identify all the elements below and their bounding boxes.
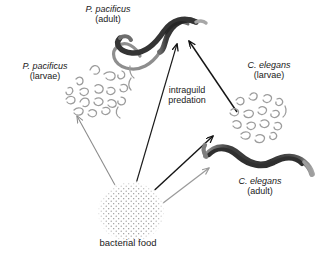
label-species: P. pacificus xyxy=(2,61,88,71)
label-species: P. pacificus xyxy=(62,4,154,14)
label-p-pacificus-larvae: P. pacificus (larvae) xyxy=(2,61,88,81)
c-elegans-larvae-cluster xyxy=(230,93,286,143)
c-elegans-adult-worm xyxy=(204,145,312,175)
interaction-line-1: intraguild xyxy=(150,85,224,95)
label-species: C. elegans xyxy=(214,176,306,186)
edge-food-to-p-pacificus-larvae xyxy=(77,116,121,196)
label-intraguild-predation: intraguild predation xyxy=(150,85,224,105)
resource-label: bacterial food xyxy=(72,238,184,249)
label-p-pacificus-adult: P. pacificus (adult) xyxy=(62,4,154,24)
edge-food-to-p-pacificus-adult xyxy=(133,44,177,194)
label-bacterial-food: bacterial food xyxy=(72,238,184,249)
label-species: C. elegans xyxy=(226,60,312,70)
bacterial-food-patch xyxy=(97,181,165,243)
label-stage: (adult) xyxy=(62,14,154,24)
diagram-canvas: P. pacificus (adult) P. pacificus (larva… xyxy=(0,0,317,260)
p-pacificus-adult-worm xyxy=(114,19,206,69)
diagram-graphics xyxy=(0,0,317,260)
label-c-elegans-adult: C. elegans (adult) xyxy=(214,176,306,196)
interaction-line-2: predation xyxy=(150,95,224,105)
label-stage: (adult) xyxy=(214,186,306,196)
label-stage: (larvae) xyxy=(2,71,88,81)
label-c-elegans-larvae: C. elegans (larvae) xyxy=(226,60,312,80)
label-stage: (larvae) xyxy=(226,70,312,80)
